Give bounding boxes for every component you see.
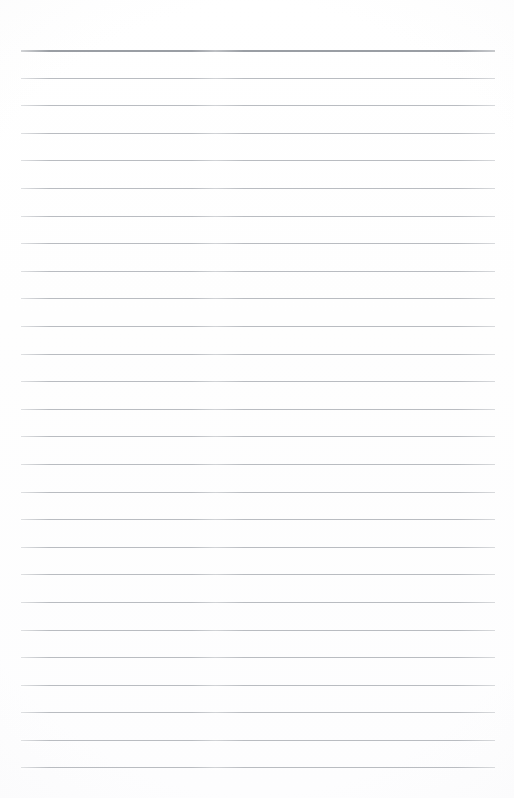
writing-area[interactable] bbox=[0, 0, 514, 798]
lined-paper-page bbox=[0, 0, 514, 798]
